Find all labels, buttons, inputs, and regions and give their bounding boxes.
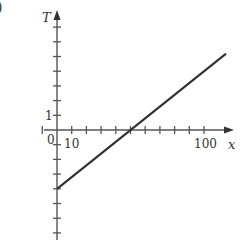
- origin-label: 0: [47, 133, 55, 147]
- series-line: [57, 54, 226, 189]
- y-axis-label: T: [42, 10, 52, 25]
- x-tick-label-10: 10: [64, 137, 79, 151]
- y-axis-arrow-icon: [54, 10, 61, 20]
- x-axis-arrow-icon: [224, 127, 234, 134]
- y-tick-label-1: 1: [45, 109, 53, 123]
- x-tick-label-100: 100: [194, 137, 217, 151]
- panel-label: ): [0, 0, 2, 15]
- x-axis-label: x: [228, 137, 236, 152]
- chart: ) T x 1 0 10 100: [0, 0, 240, 243]
